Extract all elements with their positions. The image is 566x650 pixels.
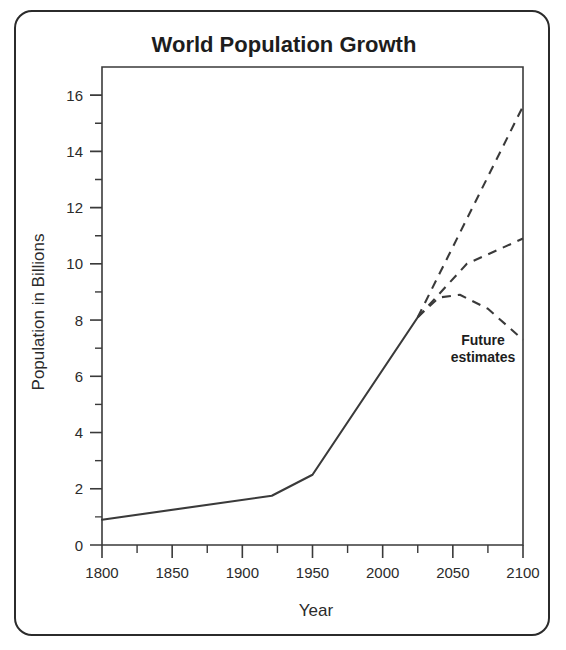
x-tick-label: 1900 (226, 564, 259, 581)
x-tick-label: 1800 (85, 564, 118, 581)
y-tick-label: 12 (66, 199, 83, 216)
y-tick-label: 2 (75, 480, 83, 497)
series-line (418, 106, 523, 317)
x-tick-label: 1950 (296, 564, 329, 581)
y-tick-label: 14 (66, 143, 83, 160)
x-axis-tick-labels: 1800185019001950200020502100 (85, 564, 539, 581)
y-tick-label: 4 (75, 424, 83, 441)
x-axis-title: Year (299, 601, 334, 620)
y-tick-label: 8 (75, 312, 83, 329)
page-title: World Population Growth (152, 32, 417, 57)
series-line (102, 317, 418, 519)
x-tick-label: 2100 (506, 564, 539, 581)
x-tick-label: 2050 (436, 564, 469, 581)
figure-card: World Population Growth 0246810121416 18… (14, 10, 550, 636)
population-growth-chart: World Population Growth 0246810121416 18… (16, 12, 550, 636)
data-series-layer (102, 106, 523, 519)
future-estimates-annotation-line1: Future (461, 332, 505, 348)
future-estimates-annotation-line2: estimates (451, 349, 516, 365)
series-line (418, 239, 523, 318)
x-tick-label: 2000 (366, 564, 399, 581)
y-axis-ticks (90, 95, 102, 545)
y-axis-tick-labels: 0246810121416 (66, 87, 83, 554)
x-tick-label: 1850 (155, 564, 188, 581)
x-axis-ticks (102, 545, 523, 558)
y-tick-label: 0 (75, 537, 83, 554)
y-axis-title: Population in Billions (29, 234, 48, 391)
y-tick-label: 16 (66, 87, 83, 104)
y-tick-label: 6 (75, 368, 83, 385)
y-tick-label: 10 (66, 255, 83, 272)
